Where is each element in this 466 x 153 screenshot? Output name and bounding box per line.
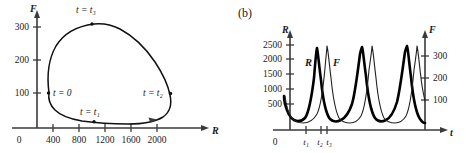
x-tick-label-2000: 2000 <box>148 135 167 145</box>
y-right-tick-label-300: 300 <box>433 51 448 61</box>
y-left-tick-label-1500: 1500 <box>263 69 282 79</box>
figure-root: F 300 200 100 R 400 800 1200 <box>0 0 466 153</box>
panel-phase-plane: F 300 200 100 R 400 800 1200 <box>0 0 233 153</box>
limit-cycle-path <box>48 24 171 124</box>
y-tick-label-300: 300 <box>15 22 30 32</box>
x-tick-label-t1: t₁ <box>303 137 309 147</box>
point-marker-t1 <box>92 120 95 123</box>
panel-a-svg: F 300 200 100 R 400 800 1200 <box>0 0 233 153</box>
y-left-tick-label-500: 500 <box>268 99 283 109</box>
y-axis-right-arrowhead <box>422 30 428 38</box>
y-left-tick-label-2000: 2000 <box>263 54 282 64</box>
curve-F-label: F <box>332 57 340 68</box>
phase-portrait-annotations: t = 0 t = t₁ t = t₂ t = t₃ <box>53 5 163 117</box>
curve-R: R <box>284 46 425 123</box>
y-left-tick-label-1000: 1000 <box>263 84 282 94</box>
x-axis-arrowhead <box>201 125 209 131</box>
x-tick-label-t2: t₂ <box>317 137 323 147</box>
y-right-tick-label-100: 100 <box>433 95 448 105</box>
annotation-t2: t = t₂ <box>143 88 163 98</box>
x-tick-label-1600: 1600 <box>122 135 141 145</box>
y-axis-right-label: F <box>428 24 436 35</box>
panel-a-y-axis: F 300 200 100 <box>15 3 41 128</box>
y-left-tick-label-2500: 2500 <box>263 40 282 50</box>
curve-R-label: R <box>304 57 312 68</box>
panel-a-x-axis: R 400 800 1200 1600 2000 0 <box>12 124 219 145</box>
point-marker-t3 <box>90 22 93 25</box>
x-axis-label: t <box>450 127 454 138</box>
x-tick-label-800: 800 <box>72 135 87 145</box>
x-tick-label-1200: 1200 <box>96 135 115 145</box>
x-axis-arrowhead <box>440 127 448 133</box>
origin-label: 0 <box>17 135 22 145</box>
x-tick-label-t3: t₃ <box>326 137 332 147</box>
x-tick-label-400: 400 <box>46 135 61 145</box>
panel-time-series: (b) R 2500 2000 1500 1000 500 <box>233 0 466 153</box>
y-right-tick-label-200: 200 <box>433 73 448 83</box>
annotation-t3: t = t₃ <box>76 5 96 15</box>
phase-portrait-curve <box>47 22 172 124</box>
point-marker-t2 <box>169 92 172 95</box>
annotation-t0: t = 0 <box>53 88 72 98</box>
panel-b-tag: (b) <box>238 6 252 20</box>
y-axis-label: F <box>29 3 37 14</box>
panel-b-svg: (b) R 2500 2000 1500 1000 500 <box>233 0 466 153</box>
panel-b-x-axis: t t₁ t₂ t₃ 0 <box>273 126 454 147</box>
x-axis-label: R <box>211 125 219 136</box>
origin-label: 0 <box>273 137 278 147</box>
y-axis-left-label: R <box>281 24 289 35</box>
annotation-t1: t = t₁ <box>80 107 100 117</box>
y-tick-label-200: 200 <box>15 55 30 65</box>
panel-b-y-axis-right: F 300 200 100 <box>421 24 448 130</box>
y-tick-label-100: 100 <box>15 88 30 98</box>
point-marker-t0 <box>47 91 50 94</box>
